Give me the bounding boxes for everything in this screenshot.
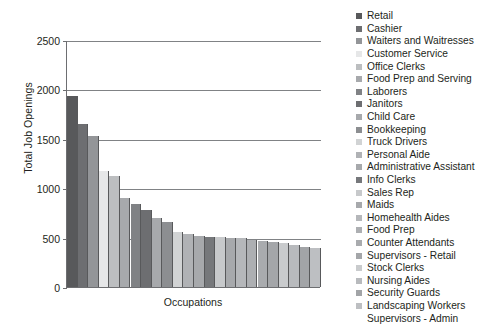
bar [78, 124, 89, 287]
bar [194, 236, 205, 287]
bar [247, 240, 258, 287]
legend-swatch-icon [356, 152, 362, 158]
bar [67, 96, 78, 287]
legend-label: Landscaping Workers [367, 300, 465, 312]
legend-item: Janitors [356, 98, 494, 111]
bar [236, 238, 247, 287]
legend-swatch-icon [356, 26, 362, 32]
bar-chart: Total Job Openings 05001000150020002500 … [0, 0, 494, 332]
y-tick-label: 2500 [37, 35, 60, 47]
legend-label: Truck Drivers [367, 136, 427, 148]
legend-swatch-icon [356, 303, 362, 309]
legend-swatch-icon [356, 215, 362, 221]
legend-swatch-icon [356, 51, 362, 57]
y-tick-label: 1000 [37, 183, 60, 195]
bar [141, 210, 152, 287]
bar [131, 204, 142, 287]
legend-label: Bookkeeping [367, 124, 426, 136]
bar [183, 234, 194, 287]
legend-swatch-icon [356, 114, 362, 120]
legend-item: Homehealth Aides [356, 212, 494, 225]
bar [205, 237, 216, 287]
legend-item: Cashier [356, 23, 494, 36]
legend-swatch-icon [356, 64, 362, 70]
legend-item: Landscaping Workers [356, 300, 494, 313]
bar [162, 222, 173, 287]
bar [109, 176, 120, 287]
legend-label: Sales Rep [367, 187, 414, 199]
bar [300, 247, 311, 288]
legend-item: Personal Aide [356, 149, 494, 162]
bar [120, 198, 131, 287]
legend-label: Child Care [367, 111, 415, 123]
legend-label: Homehealth Aides [367, 212, 450, 224]
legend-label: Nursing Aides [367, 275, 430, 287]
legend-label: Security Guards [367, 287, 440, 299]
legend-label: Cashier [367, 23, 402, 35]
legend-swatch-icon [356, 13, 362, 19]
legend-label: Administrative Assistant [367, 161, 475, 173]
legend-swatch-icon [356, 227, 362, 233]
legend-item: Security Guards [356, 287, 494, 300]
legend-label: Maids [367, 199, 394, 211]
legend-label: Stock Clerks [367, 262, 424, 274]
legend-item: Info Clerks [356, 174, 494, 187]
legend-swatch-icon [356, 190, 362, 196]
legend-label: Customer Service [367, 48, 448, 60]
legend-swatch-icon [356, 139, 362, 145]
bar [152, 218, 163, 287]
legend-label: Personal Aide [367, 149, 430, 161]
legend-item: Maids [356, 199, 494, 212]
legend-swatch-icon [356, 290, 362, 296]
plot-area: 05001000150020002500 [66, 41, 320, 288]
y-tick-label: 0 [54, 282, 60, 294]
legend-swatch-icon [356, 316, 362, 322]
legend-item: Sales Rep [356, 186, 494, 199]
legend-label: Office Clerks [367, 61, 425, 73]
bar [310, 248, 321, 287]
bar [173, 232, 184, 287]
legend-item: Customer Service [356, 48, 494, 61]
legend-label: Counter Attendants [367, 237, 454, 249]
chart-legend: RetailCashierWaiters and WaitressesCusto… [356, 10, 494, 325]
bar [88, 136, 99, 287]
bar [258, 241, 269, 287]
legend-item: Food Prep and Serving [356, 73, 494, 86]
legend-item: Counter Attendants [356, 237, 494, 250]
legend-item: Food Prep [356, 224, 494, 237]
legend-swatch-icon [356, 177, 362, 183]
legend-item: Laborers [356, 86, 494, 99]
legend-label: Supervisors - Admin [367, 313, 458, 325]
bar [279, 243, 290, 287]
legend-item: Office Clerks [356, 60, 494, 73]
legend-swatch-icon [356, 265, 362, 271]
y-tick-mark [63, 288, 67, 289]
legend-item: Supervisors - Admin [356, 312, 494, 325]
legend-swatch-icon [356, 38, 362, 44]
bar-series [67, 40, 321, 287]
bar [268, 242, 279, 287]
legend-swatch-icon [356, 127, 362, 133]
legend-swatch-icon [356, 89, 362, 95]
legend-label: Supervisors - Retail [367, 250, 456, 262]
legend-label: Laborers [367, 86, 407, 98]
legend-swatch-icon [356, 164, 362, 170]
legend-swatch-icon [356, 240, 362, 246]
legend-item: Child Care [356, 111, 494, 124]
legend-item: Stock Clerks [356, 262, 494, 275]
bar [226, 238, 237, 287]
legend-item: Nursing Aides [356, 274, 494, 287]
legend-item: Retail [356, 10, 494, 23]
legend-label: Janitors [367, 98, 403, 110]
legend-label: Retail [367, 10, 393, 22]
legend-item: Bookkeeping [356, 123, 494, 136]
legend-swatch-icon [356, 202, 362, 208]
legend-swatch-icon [356, 101, 362, 107]
legend-label: Info Clerks [367, 174, 416, 186]
legend-swatch-icon [356, 278, 362, 284]
bar [215, 237, 226, 287]
legend-item: Waiters and Waitresses [356, 35, 494, 48]
legend-label: Food Prep [367, 224, 415, 236]
y-tick-label: 1500 [37, 134, 60, 146]
bar [289, 245, 300, 287]
